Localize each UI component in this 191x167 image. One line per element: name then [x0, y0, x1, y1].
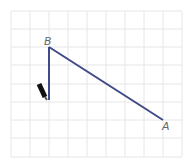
pencil-icon[interactable] [39, 84, 47, 100]
grid-lines [11, 11, 182, 157]
point-label-a: A [161, 120, 170, 133]
point-label-b: B [44, 35, 52, 48]
grid-diagram: B A [0, 0, 191, 167]
